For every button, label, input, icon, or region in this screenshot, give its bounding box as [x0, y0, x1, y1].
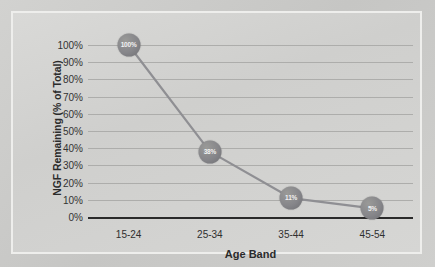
- x-axis-tick-label: 45-54: [360, 229, 386, 240]
- x-axis-tick-label: 15-24: [116, 229, 142, 240]
- data-point-label: 38%: [204, 148, 216, 155]
- chart-container: NGF Remaining (% of Total) 100%90%80%70%…: [26, 26, 433, 265]
- y-axis-tick-label: 40%: [63, 143, 83, 154]
- y-axis-tick-label: 80%: [63, 74, 83, 85]
- data-point-marker: 100%: [117, 34, 140, 57]
- x-axis-tick-label: 25-34: [197, 229, 223, 240]
- x-axis-title: Age Band: [88, 248, 413, 260]
- data-point-marker: 11%: [280, 187, 303, 210]
- x-axis-tick-label: 35-44: [278, 229, 304, 240]
- chart-frame-border: NGF Remaining (% of Total) 100%90%80%70%…: [11, 11, 422, 254]
- data-point-marker: 38%: [198, 140, 221, 163]
- data-point-label: 11%: [285, 195, 297, 202]
- chart-image-background: NGF Remaining (% of Total) 100%90%80%70%…: [0, 0, 435, 267]
- y-axis-title: NGF Remaining (% of Total): [51, 43, 63, 213]
- y-axis-tick-label: 50%: [63, 126, 83, 137]
- y-axis-tick-label: 70%: [63, 91, 83, 102]
- data-point-label: 100%: [121, 42, 137, 49]
- y-axis-tick-label: 100%: [57, 40, 83, 51]
- y-axis-tick-label: 0%: [69, 212, 83, 223]
- data-point-label: 5%: [368, 205, 377, 212]
- y-axis-tick-label: 10%: [63, 194, 83, 205]
- data-point-marker: 5%: [361, 197, 384, 220]
- series-line-path: [129, 45, 373, 208]
- y-axis-tick-label: 90%: [63, 57, 83, 68]
- y-axis-tick-label: 30%: [63, 160, 83, 171]
- y-axis-tick-label: 20%: [63, 177, 83, 188]
- y-axis-tick-label: 60%: [63, 108, 83, 119]
- line-series: [88, 45, 413, 217]
- plot-area: 100%90%80%70%60%50%40%30%20%10%0% 100%38…: [88, 45, 413, 217]
